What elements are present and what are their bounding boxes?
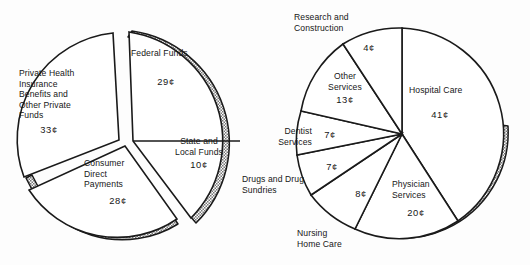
value-physician-services: 20¢ bbox=[392, 208, 440, 219]
label-physician-services: Physician Services bbox=[392, 179, 452, 200]
value-consumer-direct-payments: 28¢ bbox=[84, 196, 152, 207]
label-private-health-insurance: Private Health Insurance Benefits and Ot… bbox=[19, 68, 107, 121]
value-private-health-insurance: 33¢ bbox=[19, 125, 79, 136]
value-hospital-care: 41¢ bbox=[409, 110, 471, 121]
value-nursing-home-care: 8¢ bbox=[349, 189, 373, 200]
pie-chart-figure: Federal Funds 29¢ State and Local Funds … bbox=[0, 0, 530, 265]
label-nursing-home-care: Nursing Home Care bbox=[297, 228, 369, 249]
label-consumer-direct-payments: Consumer Direct Payments bbox=[84, 158, 170, 190]
value-dentist-services: 7¢ bbox=[318, 130, 342, 141]
label-dentist-services: Dentist Services bbox=[240, 126, 312, 147]
value-other-services: 13¢ bbox=[316, 95, 374, 106]
value-research-and-construction: 4¢ bbox=[357, 43, 381, 54]
label-other-services: Other Services bbox=[316, 71, 374, 92]
label-state-and-local-funds: State and Local Funds bbox=[161, 136, 237, 157]
label-federal-funds: Federal Funds bbox=[131, 48, 223, 59]
value-federal-funds: 29¢ bbox=[131, 77, 201, 88]
value-state-and-local-funds: 10¢ bbox=[161, 160, 237, 171]
value-drugs-and-drug-sundries: 7¢ bbox=[320, 162, 344, 173]
label-hospital-care: Hospital Care bbox=[409, 85, 491, 96]
label-research-and-construction: Research and Construction bbox=[294, 12, 390, 33]
label-drugs-and-drug-sundries: Drugs and Drug Sundries bbox=[242, 174, 326, 195]
